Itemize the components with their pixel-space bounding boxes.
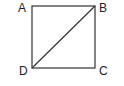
square-diagram: A B C D <box>0 0 124 86</box>
vertex-label-b: B <box>99 1 107 15</box>
diagonal-db <box>32 6 95 68</box>
vertex-label-d: D <box>19 64 28 78</box>
vertex-label-a: A <box>18 1 26 15</box>
vertex-label-c: C <box>99 64 108 78</box>
